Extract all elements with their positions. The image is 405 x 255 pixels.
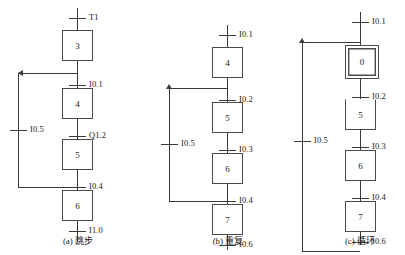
rail-segment [77, 8, 78, 30]
branch-transition-bar [10, 130, 27, 131]
transition-bar [352, 22, 369, 23]
rail-segment [77, 61, 78, 85]
transition-bar [69, 231, 86, 232]
rail-segment [360, 181, 361, 198]
diagram-loop: I0.1 0 I0.2 5 I0.3 6 I0.4 7 I0.6 [272, 0, 405, 255]
branch-transition-bar [294, 141, 311, 142]
branch-line-bottom [18, 187, 77, 188]
transition-label-i01: I0.1 [239, 30, 253, 39]
diagram-caption: (b) 重复 [188, 236, 268, 247]
step-number: 7 [225, 215, 230, 225]
step-box[interactable]: 6 [212, 153, 243, 184]
transition-bar [219, 150, 236, 151]
rail-segment [77, 170, 78, 187]
step-number: 6 [225, 164, 230, 174]
step-number: 5 [75, 150, 80, 160]
branch-line-bottom [169, 201, 227, 202]
transition-bar [219, 100, 236, 101]
transition-bar [69, 18, 86, 19]
diagram-caption: (c) 循环 [320, 236, 400, 247]
branch-line-top [302, 42, 360, 43]
transition-label-t1: T1 [89, 13, 99, 22]
rail-segment [227, 78, 228, 100]
step-box[interactable]: 5 [212, 102, 243, 133]
step-box[interactable]: 6 [345, 150, 376, 181]
rail-segment [227, 25, 228, 47]
branch-transition-bar [161, 144, 178, 145]
rail-segment [77, 119, 78, 136]
step-number: 6 [358, 161, 363, 171]
branch-transition-label: I0.5 [181, 139, 195, 148]
step-number: 0 [360, 57, 365, 67]
branch-line-vertical [302, 42, 303, 251]
branch-transition-label: I0.5 [314, 136, 328, 145]
step-number: 4 [225, 58, 230, 68]
transition-bar [352, 198, 369, 199]
branch-arrowhead [18, 70, 23, 76]
step-number: 3 [75, 41, 80, 51]
step-number: 5 [358, 110, 363, 120]
step-number: 5 [225, 113, 230, 123]
transition-label-i01: I0.1 [372, 17, 386, 26]
initial-step-box[interactable]: 0 [345, 45, 379, 79]
step-box[interactable]: 3 [62, 30, 93, 61]
branch-arrowhead [299, 38, 305, 43]
transition-bar [69, 136, 86, 137]
step-box[interactable]: 4 [62, 88, 93, 119]
branch-line-top [18, 73, 77, 74]
branch-transition-label: I0.5 [30, 125, 44, 134]
rail-segment [227, 133, 228, 150]
rail-segment [227, 184, 228, 201]
step-box[interactable]: 5 [345, 99, 376, 130]
transition-label-i10: I1.0 [89, 226, 103, 235]
transition-bar [352, 97, 369, 98]
diagram-caption: (a) 跳步 [38, 236, 118, 247]
diagram-repeat: I0.1 4 I0.2 5 I0.3 6 I0.4 7 I0.6 [140, 0, 272, 255]
sfc-figure: T1 3 I0.1 4 Q1.2 5 I0.4 6 I1.0 [0, 0, 405, 255]
step-number: 6 [75, 201, 80, 211]
rail-segment [360, 130, 361, 147]
branch-line-top [169, 88, 227, 89]
transition-bar [69, 85, 86, 86]
step-box[interactable]: 4 [212, 47, 243, 78]
step-box[interactable]: 7 [212, 204, 243, 235]
step-number: 7 [358, 212, 363, 222]
step-box[interactable]: 5 [62, 139, 93, 170]
rail-segment [360, 32, 361, 45]
step-box[interactable]: 7 [345, 201, 376, 232]
rail-segment [360, 76, 361, 97]
transition-bar [219, 35, 236, 36]
branch-line-bottom [302, 251, 360, 252]
step-box[interactable]: 6 [62, 190, 93, 221]
diagram-jump-step: T1 3 I0.1 4 Q1.2 5 I0.4 6 I1.0 [0, 0, 140, 255]
step-number: 4 [75, 99, 80, 109]
transition-bar [352, 147, 369, 148]
branch-arrowhead [166, 84, 172, 89]
